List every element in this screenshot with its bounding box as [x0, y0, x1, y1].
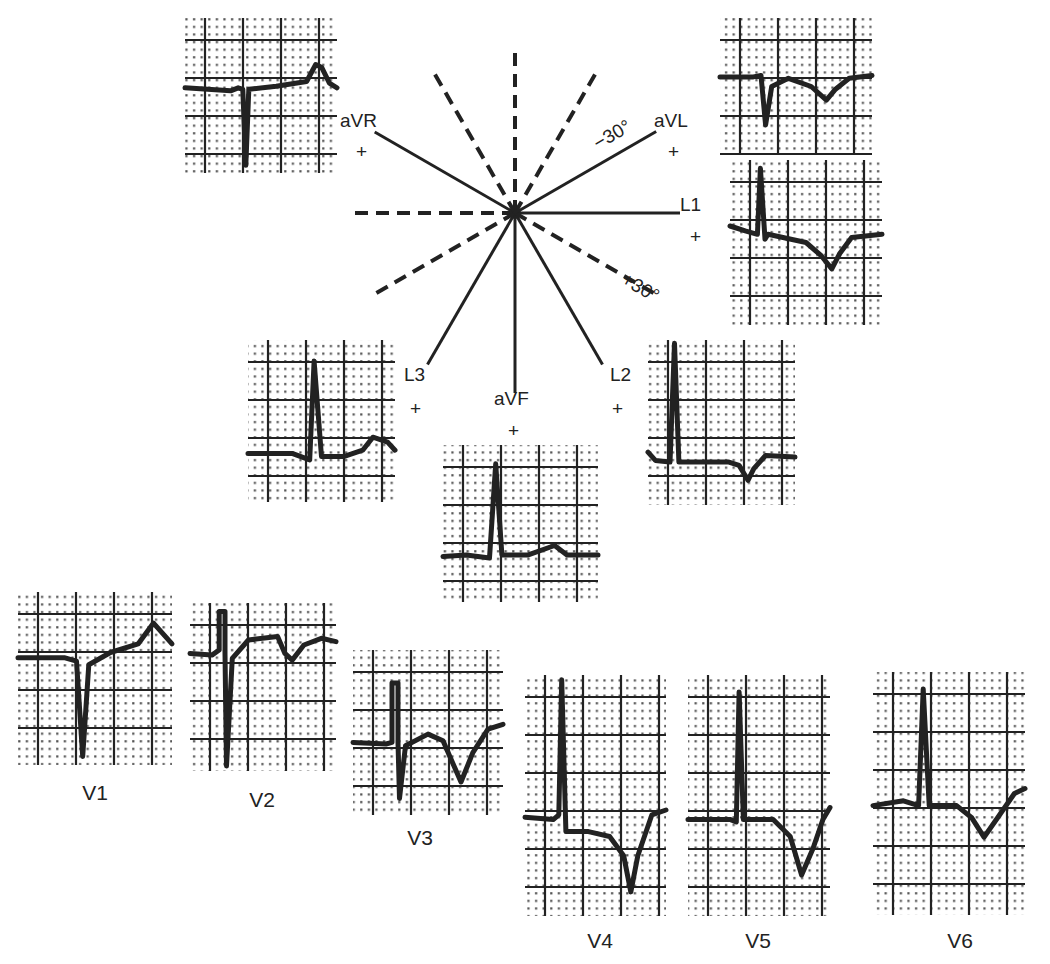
axis-line-avr: [375, 132, 515, 213]
positive-pole-sign: +: [508, 420, 519, 441]
ecg-grid-dots: [185, 18, 337, 173]
ecg-grid-dots: [688, 675, 830, 916]
ecg-strip-v5: V5: [688, 675, 830, 952]
axis-line-neg-l2: [433, 70, 516, 213]
positive-pole-sign: +: [668, 141, 679, 162]
positive-pole-sign: +: [410, 398, 421, 419]
ecg-leads: V1V2V3V4V5V6: [18, 18, 1025, 952]
ecg-strip-v6: V6: [873, 672, 1025, 952]
positive-pole-sign: +: [690, 226, 701, 247]
lead-caption-v4: V4: [587, 929, 613, 952]
lead-caption-v5: V5: [745, 929, 771, 952]
angle-annotation: +30°: [618, 268, 663, 306]
axis-label-avf: aVF: [494, 388, 529, 409]
ecg-strip-v1: V1: [18, 592, 172, 804]
ecg-strip-v4: V4: [525, 675, 666, 952]
ecg-grid-dots: [873, 672, 1025, 915]
axis-line-neg-avl: [372, 213, 515, 296]
axis-label-l1: L1: [680, 194, 701, 215]
lead-caption-v6: V6: [947, 929, 973, 952]
ecg-grid-dots: [190, 603, 336, 771]
axis-line-l3: [428, 213, 516, 365]
axis-line-l2: [515, 213, 603, 365]
ecg-grid-dots: [720, 18, 872, 155]
ecg-grid-dots: [18, 592, 172, 765]
lead-caption-v1: V1: [82, 781, 108, 804]
ecg-grid-dots: [248, 340, 395, 502]
ecg-figure: L1+aVL+−30°aVR+L2+aVF+L3++30° V1V2V3V4V5…: [0, 0, 1050, 964]
ecg-strip-avf: [443, 445, 598, 602]
axis-label-l3: L3: [404, 364, 425, 385]
positive-pole-sign: +: [612, 398, 623, 419]
ecg-strip-l3: [248, 340, 395, 502]
lead-caption-v3: V3: [407, 826, 433, 849]
ecg-strip-avl: [720, 18, 872, 155]
ecg-strip-v3: V3: [353, 650, 503, 849]
ecg-strip-l2: [648, 340, 795, 505]
axis-label-avl: aVL: [654, 110, 688, 131]
ecg-grid-dots: [525, 675, 666, 916]
ecg-strip-v2: V2: [190, 603, 336, 811]
axis-line-avl: [515, 132, 656, 214]
ecg-grid-dots: [443, 445, 598, 602]
ecg-strip-l1: [730, 160, 882, 325]
axis-line-neg-l3: [515, 70, 598, 213]
ecg-strip-avr: [185, 18, 337, 173]
lead-caption-v2: V2: [249, 788, 275, 811]
axis-label-l2: L2: [610, 364, 631, 385]
axis-label-avr: aVR: [340, 110, 377, 131]
positive-pole-sign: +: [356, 141, 367, 162]
